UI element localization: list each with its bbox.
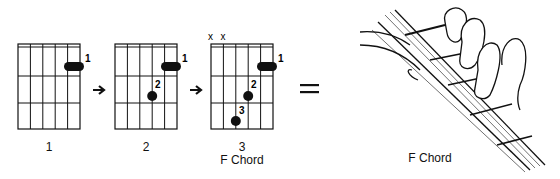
- step-label-2: 2: [106, 140, 186, 154]
- barre-finger-1: [64, 62, 84, 71]
- chord-diagram-3: x x 1 2 3: [208, 31, 284, 129]
- hand-on-fretboard-illustration: [360, 8, 545, 172]
- step-label-3: 3: [202, 140, 282, 154]
- arrow-icon: [190, 86, 201, 94]
- finger-dot-3: [231, 116, 241, 126]
- illustration-caption: F Chord: [390, 151, 470, 165]
- chord-name-label: F Chord: [202, 153, 282, 167]
- chord-diagram-1: 1: [18, 44, 91, 129]
- svg-text:2: 2: [251, 79, 257, 90]
- svg-text:1: 1: [85, 53, 91, 64]
- step-label-1: 1: [9, 140, 89, 154]
- arrow-icon: [93, 86, 104, 94]
- svg-text:1: 1: [278, 53, 284, 64]
- svg-text:1: 1: [182, 53, 188, 64]
- barre-finger-1: [161, 62, 181, 71]
- chord-diagram-2: 1 2: [115, 44, 188, 129]
- equals-icon: [300, 84, 319, 93]
- barre-finger-1: [257, 62, 277, 71]
- finger-dot-2: [147, 91, 157, 101]
- finger-dot-2: [243, 91, 253, 101]
- svg-text:2: 2: [155, 79, 161, 90]
- muted-string-marker: x: [220, 31, 225, 42]
- svg-text:3: 3: [239, 105, 245, 116]
- muted-string-marker: x: [208, 31, 213, 42]
